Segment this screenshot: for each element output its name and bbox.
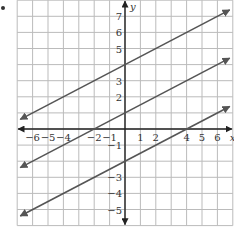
x-tick-label: −6 [25, 132, 40, 143]
x-tick-label: 5 [199, 132, 205, 143]
x-tick-label: 6 [214, 132, 220, 143]
y-tick-label: 3 [116, 76, 122, 87]
x-tick-label: −5 [41, 132, 56, 143]
y-axis-label: y [129, 1, 136, 12]
y-tick-label: 2 [116, 92, 122, 103]
y-tick-label: −1 [107, 140, 122, 151]
x-tick-label: −2 [87, 132, 102, 143]
x-axis-label: x [230, 132, 234, 143]
x-tick-label: 1 [137, 132, 143, 143]
coordinate-plane: −6−5−4−2−11245676532−1−3−4−5xy [0, 0, 234, 231]
y-tick-label: −3 [107, 172, 122, 183]
y-tick-label: −5 [107, 205, 122, 216]
x-tick-label: −4 [56, 132, 71, 143]
x-tick-label: 2 [153, 132, 159, 143]
x-tick-label: 4 [183, 132, 189, 143]
y-tick-label: 6 [116, 27, 122, 38]
y-tick-label: −4 [107, 188, 122, 199]
y-tick-label: 7 [116, 11, 122, 22]
y-tick-label: 5 [116, 44, 122, 55]
